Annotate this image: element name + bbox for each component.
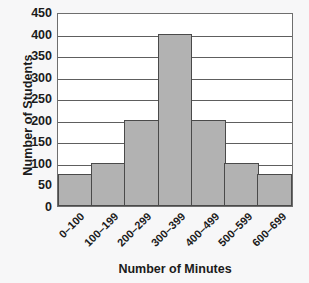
bar <box>124 120 159 206</box>
bar <box>58 174 93 206</box>
bar <box>158 34 193 206</box>
bar <box>224 163 259 206</box>
y-tick-label: 400 <box>22 28 52 42</box>
y-tick-label: 450 <box>22 6 52 20</box>
bar <box>91 163 126 206</box>
y-tick-label: 300 <box>22 71 52 85</box>
y-tick-label: 250 <box>22 92 52 106</box>
y-tick-label: 350 <box>22 49 52 63</box>
bar <box>257 174 292 206</box>
y-axis-tick-labels: 050100150200250300350400450 <box>22 13 52 207</box>
y-tick-label: 100 <box>22 157 52 171</box>
plot-area <box>57 13 293 207</box>
histogram-chart: Number of Students 050100150200250300350… <box>0 0 309 283</box>
x-axis-title: Number of Minutes <box>57 262 293 276</box>
y-tick-label: 150 <box>22 135 52 149</box>
y-tick-label: 0 <box>22 200 52 214</box>
y-tick-label: 200 <box>22 114 52 128</box>
bar <box>191 120 226 206</box>
x-axis-tick-labels: 0–100100–199200–299300–399400–499500–599… <box>57 207 293 257</box>
bars-layer <box>58 14 292 206</box>
y-tick-label: 50 <box>22 178 52 192</box>
